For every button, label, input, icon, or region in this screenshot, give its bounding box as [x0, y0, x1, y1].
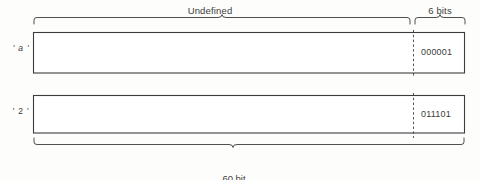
- bit-value-a: 000001: [421, 48, 452, 57]
- memory-cell-diagram: Undefined 6 bits ' a ' ' 2 ' 000001 0111…: [0, 0, 480, 180]
- caption-line-1: 60 bit: [0, 173, 468, 180]
- bit-value-2: 011101: [421, 110, 451, 119]
- memory-cell-box-2: [34, 96, 465, 134]
- row-label-2: ' 2 ': [8, 107, 34, 116]
- label-undefined: Undefined: [0, 6, 420, 16]
- brace-memory-cell: [34, 138, 464, 148]
- caption-memory-cell: 60 bit memory cell: [0, 150, 468, 180]
- label-six-bits: 6 bits: [408, 6, 472, 16]
- row-label-a: ' a ': [8, 44, 34, 53]
- memory-cell-box-a: [34, 33, 465, 74]
